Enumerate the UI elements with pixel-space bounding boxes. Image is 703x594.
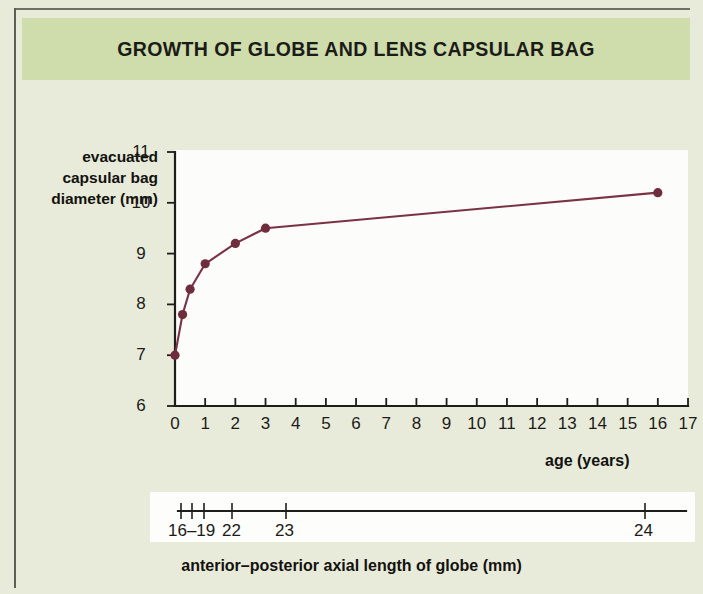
x-tick-label-13: 13	[552, 414, 582, 434]
data-series-line	[175, 193, 658, 356]
data-point-4	[231, 239, 240, 248]
x-tick-label-14: 14	[582, 414, 612, 434]
y-axis-ticks	[167, 152, 175, 406]
x-tick-label-3: 3	[251, 414, 281, 434]
y-tick-label-6: 6	[126, 396, 156, 416]
x-tick-label-12: 12	[522, 414, 552, 434]
figure-canvas: GROWTH OF GLOBE AND LENS CAPSULAR BAG ev…	[0, 0, 703, 594]
secondary-tick-label-24: 24	[634, 521, 653, 541]
x-tick-label-17: 17	[673, 414, 703, 434]
data-point-0	[170, 351, 179, 360]
x-tick-label-7: 7	[371, 414, 401, 434]
x-tick-label-0: 0	[160, 414, 190, 434]
x-tick-label-8: 8	[401, 414, 431, 434]
x-tick-label-1: 1	[190, 414, 220, 434]
secondary-tick-label-23: 23	[275, 521, 294, 541]
secondary-tick-label-22: 22	[222, 521, 241, 541]
y-tick-label-10: 10	[126, 193, 156, 213]
x-tick-label-10: 10	[462, 414, 492, 434]
data-point-1	[178, 310, 187, 319]
secondary-axis-title: anterior–posterior axial length of globe…	[0, 557, 703, 575]
y-tick-label-11: 11	[126, 142, 156, 162]
x-tick-label-9: 9	[432, 414, 462, 434]
x-tick-label-5: 5	[311, 414, 341, 434]
data-point-5	[261, 224, 270, 233]
data-point-3	[201, 259, 210, 268]
x-tick-label-6: 6	[341, 414, 371, 434]
x-tick-label-11: 11	[492, 414, 522, 434]
x-tick-label-16: 16	[643, 414, 673, 434]
x-tick-label-4: 4	[281, 414, 311, 434]
secondary-tick-label-16-19: 16–19	[168, 521, 215, 541]
y-tick-label-9: 9	[126, 244, 156, 264]
y-tick-label-7: 7	[126, 345, 156, 365]
x-axis-ticks	[175, 398, 688, 406]
data-point-6	[653, 188, 662, 197]
data-point-2	[185, 285, 194, 294]
x-tick-label-15: 15	[613, 414, 643, 434]
x-tick-label-2: 2	[220, 414, 250, 434]
x-axis-title: age (years)	[545, 452, 630, 470]
y-tick-label-8: 8	[126, 294, 156, 314]
